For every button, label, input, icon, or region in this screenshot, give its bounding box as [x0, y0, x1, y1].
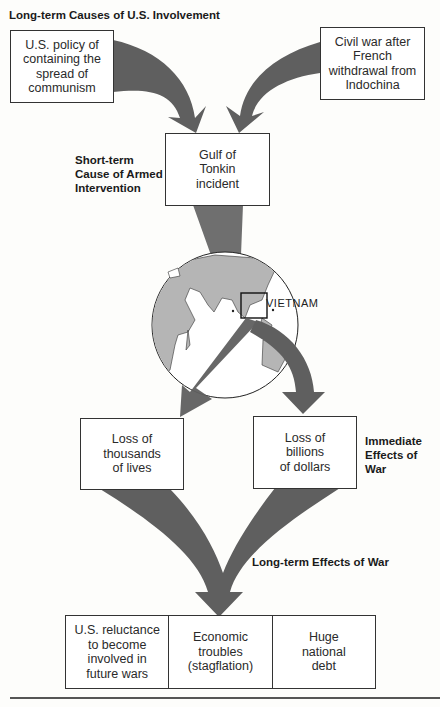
long-term-effect-text: Economic troubles (stagflation): [188, 630, 253, 674]
cause-text: Civil war after French withdrawal from I…: [329, 35, 417, 93]
long-term-effect-debt: Huge national debt: [272, 616, 375, 688]
long-term-effect-stagflation: Economic troubles (stagflation): [168, 616, 271, 688]
long-term-effect-text: U.S. reluctance to become involved in fu…: [74, 623, 159, 681]
arrow-immediate-to-longterm: [100, 488, 340, 617]
long-term-effects-row: U.S. reluctance to become involved in fu…: [65, 615, 376, 689]
cause-box-civil-war: Civil war after French withdrawal from I…: [320, 27, 425, 100]
globe-icon: [145, 252, 298, 398]
heading-long-term-effects: Long-term Effects of War: [252, 555, 389, 569]
heading-long-term-causes: Long-term Causes of U.S. Involvement: [9, 8, 220, 22]
bottom-divider: [10, 697, 440, 699]
short-term-text: Gulf of Tonkin incident: [196, 148, 239, 192]
heading-short-term-cause: Short-term Cause of Armed Intervention: [75, 153, 163, 195]
vietnam-label: VIETNAM: [266, 297, 318, 309]
effect-box-dollars: Loss of billions of dollars: [253, 416, 357, 489]
long-term-effect-reluctance: U.S. reluctance to become involved in fu…: [66, 616, 168, 688]
diagram-artwork: [0, 0, 440, 707]
arrow-cause-left: [113, 40, 206, 133]
effect-box-lives: Loss of thousands of lives: [80, 418, 184, 490]
long-term-effect-text: Huge national debt: [302, 630, 346, 674]
cause-box-containment: U.S. policy of containing the spread of …: [10, 30, 114, 103]
effect-text: Loss of thousands of lives: [103, 432, 161, 476]
arrow-cause-right: [226, 42, 320, 133]
short-term-box-gulf-of-tonkin: Gulf of Tonkin incident: [165, 133, 270, 206]
effect-text: Loss of billions of dollars: [280, 431, 331, 475]
heading-immediate-effects: Immediate Effects of War: [365, 434, 422, 476]
cause-text: U.S. policy of containing the spread of …: [23, 38, 101, 96]
